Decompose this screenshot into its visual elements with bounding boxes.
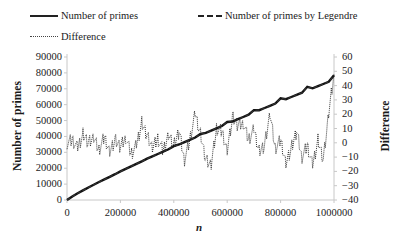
x-tick-label: 400000 [158, 207, 190, 218]
x-axis-title: n [196, 221, 202, 233]
y-left-tick-label: 40000 [36, 130, 62, 141]
y-left-tick-label: 50000 [36, 115, 62, 126]
y-right-tick-label: 0 [342, 137, 347, 148]
y-right-tick-label: 60 [342, 51, 353, 62]
y-left-tick-label: 20000 [36, 162, 62, 173]
y-right-tick-label: 20 [342, 108, 353, 119]
y-right-tick-label: 40 [342, 80, 353, 91]
y-left-tick-label: 0 [57, 194, 62, 205]
x-tick-label: 200000 [105, 207, 137, 218]
y-right-tick-label: 10 [342, 123, 353, 134]
y-axis-right-title: Difference [379, 86, 391, 166]
y-left-tick-label: 10000 [36, 178, 62, 189]
y-left-tick-label: 90000 [36, 51, 62, 62]
y-right-tick-label: −20 [342, 165, 358, 176]
y-left-tick-label: 70000 [36, 83, 62, 94]
y-left-tick-label: 30000 [36, 146, 62, 157]
y-right-tick-label: −30 [342, 180, 358, 191]
y-left-tick-label: 60000 [36, 99, 62, 110]
x-tick-label: 1000000 [316, 207, 353, 218]
y-right-tick-label: −10 [342, 151, 358, 162]
y-axis-left-title: Number of primes [11, 71, 23, 181]
y-right-tick-label: 30 [342, 94, 353, 105]
y-right-tick-label: 50 [342, 65, 353, 76]
x-tick-label: 0 [64, 207, 69, 218]
y-left-tick-label: 80000 [36, 67, 62, 78]
x-tick-label: 800000 [265, 207, 297, 218]
series-difference [67, 74, 334, 169]
y-right-tick-label: −40 [342, 194, 358, 205]
x-tick-label: 600000 [211, 207, 243, 218]
